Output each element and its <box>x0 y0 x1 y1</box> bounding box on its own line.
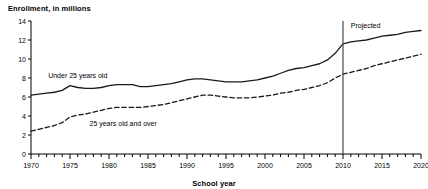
x-axis-title-group: School year <box>192 179 236 188</box>
x-tick-label: 1990 <box>179 162 195 169</box>
chart-title: Enrollment, in millions <box>8 4 91 13</box>
data-series-group: Under 25 years old25 years old and over <box>31 31 421 132</box>
x-tick-label: 1975 <box>62 162 78 169</box>
chart-title-group: Enrollment, in millions <box>8 4 91 13</box>
y-tick-label: 10 <box>18 56 26 63</box>
x-tick-label: 1985 <box>140 162 156 169</box>
x-axis-title: School year <box>192 179 236 188</box>
y-tick-label: 8 <box>22 75 26 82</box>
y-axis: 02468101214 <box>18 18 31 158</box>
y-tick-label: 12 <box>18 37 26 44</box>
y-tick-label: 14 <box>18 18 26 25</box>
chart-canvas: Enrollment, in millions 02468101214 1970… <box>0 0 428 189</box>
x-tick-label: 2010 <box>335 162 351 169</box>
x-tick-label: 1995 <box>218 162 234 169</box>
y-tick-label: 0 <box>22 151 26 158</box>
x-axis: 1970197519801985199019952000200520102015… <box>23 154 428 169</box>
y-tick-label: 4 <box>22 113 26 120</box>
y-tick-label: 2 <box>22 132 26 139</box>
series-line-0 <box>31 31 421 96</box>
y-tick-label: 6 <box>22 94 26 101</box>
series-label-1: 25 years old and over <box>90 120 158 128</box>
enrollment-chart: Enrollment, in millions 02468101214 1970… <box>0 0 428 189</box>
x-tick-label: 2005 <box>296 162 312 169</box>
x-tick-label: 2015 <box>374 162 390 169</box>
x-tick-label: 2020 <box>413 162 428 169</box>
projected-label: Projected <box>351 22 381 30</box>
x-tick-label: 1970 <box>23 162 39 169</box>
x-tick-label: 1980 <box>101 162 117 169</box>
series-label-0: Under 25 years old <box>48 72 107 80</box>
x-tick-label: 2000 <box>257 162 273 169</box>
